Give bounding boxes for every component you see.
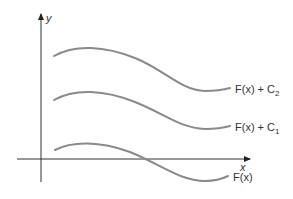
label-f-plus-c2: F(x) + C2 [235, 83, 280, 98]
curve-f-plus-c1 [54, 92, 230, 129]
curve-f [55, 143, 228, 181]
label-f-plus-c1: F(x) + C1 [235, 121, 280, 136]
antiderivative-diagram: y x F(x) + C2 F(x) + C1 F(x) [0, 0, 293, 199]
curve-f-plus-c2 [54, 48, 230, 91]
label-f: F(x) [233, 171, 253, 183]
y-axis-label: y [45, 12, 53, 24]
